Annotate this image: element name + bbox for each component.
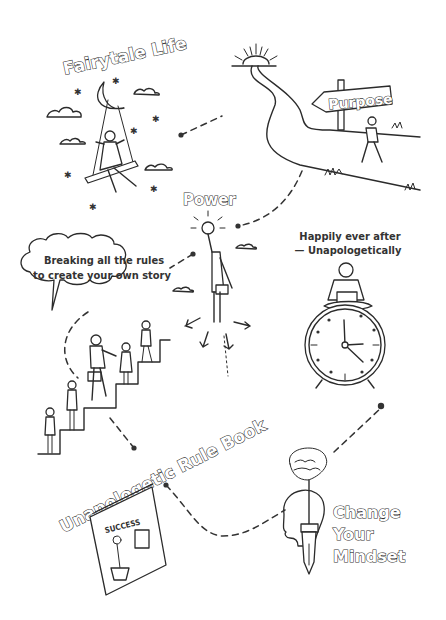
edge-breaking-loop [65,312,88,378]
motion-arrows-icon [185,318,250,349]
mindset-text-line2: Your [332,525,374,544]
svg-text:✱: ✱ [64,170,72,180]
cloud-icon [236,244,256,249]
cloud-icon [173,287,193,292]
svg-text:✱: ✱ [74,87,82,97]
rule-book-title: Unapologetic Rule Book [56,415,269,537]
breaking-rules-section: Breaking all the rules to create your ow… [21,234,171,455]
edge-purpose-power [238,171,302,226]
purpose-signpost-icon: Purpose [312,80,393,130]
power-title: Power [183,191,236,209]
edge-mindset-happily [334,408,381,452]
breaking-rules-text-line1: Breaking all the rules [44,254,164,267]
alarm-clock-icon [305,305,385,388]
svg-text:✱: ✱ [150,184,158,194]
mindset-text-line1: Change [333,503,401,522]
people-climbing-icon [45,321,152,453]
svg-text:✱: ✱ [112,76,120,86]
flying-woman-lightbulb-icon [191,211,232,376]
breaking-rules-text-line2: to create your own story [33,269,171,282]
fairytale-life-section: Fairytale Life ✱✱✱ ✱✱✱ ✱ [47,33,188,212]
head-brain-pen-icon [284,448,327,574]
svg-text:✱: ✱ [130,126,138,136]
sunrise-icon [232,44,277,66]
happily-text-line2: — Unapologetically [295,244,402,257]
woman-laptop-icon [324,263,372,310]
edge-power-breaking [170,254,193,268]
edge-rulebook-mindset [166,485,285,536]
edge-fairytale-purpose [181,116,222,135]
svg-text:✱: ✱ [152,114,160,124]
happily-ever-after-section: Happily ever after — Unapologetically [295,230,402,388]
happily-text-line1: Happily ever after [299,230,400,243]
edge-breaking-rulebook [110,418,134,448]
mindset-text-line3: Mindset [333,547,406,566]
walking-woman-icon [362,117,382,162]
power-section: Power [173,191,256,376]
speech-bubble: Breaking all the rules to create your ow… [21,234,171,311]
winding-road-icon [251,66,420,190]
rule-book-section: Unapologetic Rule Book SUCCESS [56,415,269,595]
svg-text:✱: ✱ [89,202,97,212]
journey-diagram: Fairytale Life ✱✱✱ ✱✱✱ ✱ [0,0,446,620]
mindset-section: Change Your Mindset [284,448,406,574]
purpose-section: Purpose [232,44,420,190]
fairytale-life-title: Fairytale Life [61,33,188,79]
